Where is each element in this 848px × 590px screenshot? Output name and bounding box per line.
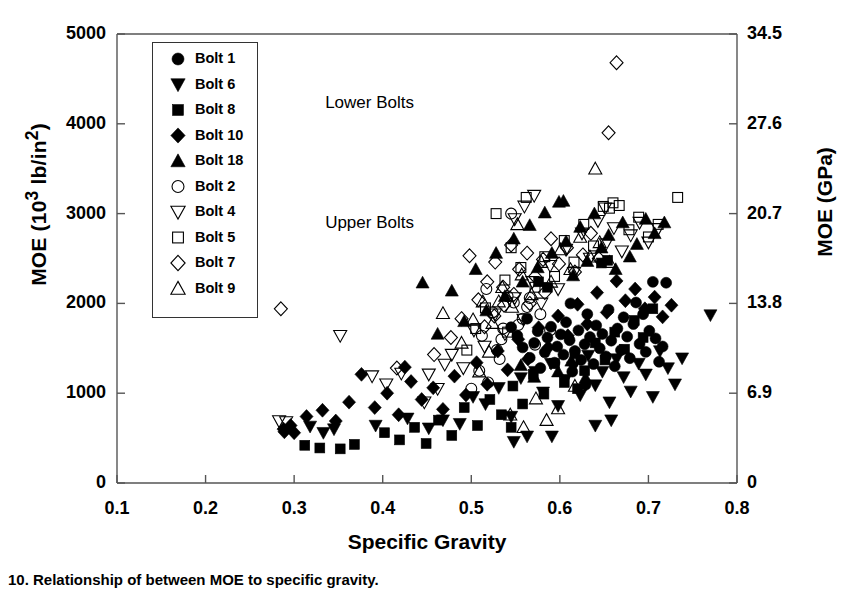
data-point bbox=[447, 430, 457, 440]
data-point bbox=[422, 369, 435, 381]
data-point bbox=[392, 408, 405, 422]
data-point bbox=[315, 443, 325, 453]
data-point bbox=[545, 431, 558, 443]
data-point bbox=[661, 363, 674, 375]
x-tick-label-6: 0.7 bbox=[618, 498, 678, 519]
plot-annotation-0: Lower Bolts bbox=[325, 93, 414, 113]
data-point bbox=[444, 331, 457, 345]
data-point bbox=[646, 392, 659, 404]
data-point bbox=[589, 420, 602, 432]
data-point bbox=[523, 219, 536, 231]
data-point bbox=[491, 209, 501, 219]
data-point bbox=[486, 317, 499, 329]
data-point bbox=[658, 216, 671, 228]
data-point bbox=[434, 415, 444, 425]
data-point bbox=[355, 367, 368, 381]
legend-item-bolt-5[interactable]: Bolt 5 bbox=[153, 226, 259, 251]
data-point bbox=[535, 309, 546, 320]
data-point bbox=[317, 427, 330, 439]
data-point bbox=[274, 302, 287, 316]
legend-item-label: Bolt 9 bbox=[195, 280, 235, 296]
data-point bbox=[573, 325, 584, 336]
data-point bbox=[368, 401, 381, 415]
legend-item-bolt-8[interactable]: Bolt 8 bbox=[153, 98, 259, 123]
legend-item-bolt-18[interactable]: Bolt 18 bbox=[153, 149, 259, 174]
data-point bbox=[500, 275, 510, 285]
data-point bbox=[640, 346, 651, 357]
x-tick-label-4: 0.5 bbox=[441, 498, 501, 519]
data-point bbox=[448, 369, 461, 383]
data-point bbox=[349, 439, 359, 449]
data-point bbox=[629, 316, 639, 326]
y-tick-label-left-3: 3000 bbox=[36, 203, 106, 224]
data-point bbox=[614, 201, 624, 211]
data-point bbox=[316, 403, 329, 417]
y-tick-label-left-0: 0 bbox=[36, 472, 106, 493]
data-point bbox=[590, 338, 600, 348]
x-tick-label-5: 0.6 bbox=[530, 498, 590, 519]
figure-caption: 10. Relationship of between MOE to speci… bbox=[8, 571, 838, 590]
data-point bbox=[431, 327, 444, 339]
plot-annotation-1: Upper Bolts bbox=[325, 213, 414, 233]
data-point bbox=[624, 230, 637, 242]
data-point bbox=[591, 286, 604, 300]
data-point bbox=[300, 440, 310, 450]
data-point bbox=[366, 371, 379, 383]
legend-item-bolt-1[interactable]: Bolt 1 bbox=[153, 47, 259, 72]
data-point bbox=[624, 386, 637, 398]
data-point bbox=[619, 294, 632, 308]
data-point bbox=[507, 232, 520, 244]
data-point bbox=[492, 383, 505, 395]
data-point bbox=[632, 358, 645, 370]
data-point bbox=[334, 330, 347, 342]
data-point bbox=[506, 422, 516, 432]
data-point bbox=[622, 331, 633, 342]
data-point bbox=[588, 207, 601, 219]
x-axis-label: Specific Gravity bbox=[117, 530, 737, 554]
legend-item-bolt-7[interactable]: Bolt 7 bbox=[153, 251, 259, 276]
data-point bbox=[469, 263, 482, 275]
x-tick-label-1: 0.2 bbox=[176, 498, 236, 519]
y-tick-label-left-1: 1000 bbox=[36, 382, 106, 403]
data-point bbox=[445, 284, 458, 296]
data-point bbox=[544, 232, 557, 246]
x-tick-label-2: 0.3 bbox=[264, 498, 324, 519]
data-point bbox=[405, 375, 418, 389]
data-point bbox=[610, 274, 623, 288]
data-point bbox=[639, 369, 652, 381]
legend-item-bolt-4[interactable]: Bolt 4 bbox=[153, 200, 259, 225]
legend-item-label: Bolt 2 bbox=[195, 178, 235, 194]
y-tick-label-right-0: 0 bbox=[747, 472, 817, 493]
data-point bbox=[485, 395, 495, 405]
y-tick-label-right-1: 6.9 bbox=[747, 382, 817, 403]
data-point bbox=[335, 444, 345, 454]
legend-item-bolt-10[interactable]: Bolt 10 bbox=[153, 124, 259, 149]
y-tick-label-left-4: 4000 bbox=[36, 113, 106, 134]
data-point bbox=[416, 276, 429, 288]
legend-item-bolt-9[interactable]: Bolt 9 bbox=[153, 277, 259, 302]
data-point bbox=[617, 372, 630, 384]
data-point bbox=[395, 435, 405, 445]
y-tick-label-right-5: 34.5 bbox=[747, 23, 817, 44]
data-point bbox=[603, 397, 616, 409]
data-point bbox=[676, 353, 689, 365]
data-point bbox=[704, 310, 717, 322]
data-point bbox=[629, 282, 642, 296]
data-point bbox=[668, 379, 681, 391]
x-tick-label-7: 0.8 bbox=[707, 498, 767, 519]
data-point bbox=[540, 414, 553, 426]
data-point bbox=[501, 363, 514, 377]
legend-item-bolt-6[interactable]: Bolt 6 bbox=[153, 73, 259, 98]
legend-item-label: Bolt 8 bbox=[195, 101, 235, 117]
x-tick-label-3: 0.4 bbox=[353, 498, 413, 519]
x-tick-label-0: 0.1 bbox=[87, 498, 147, 519]
data-point bbox=[438, 359, 451, 371]
data-point bbox=[589, 162, 602, 174]
legend-item-label: Bolt 5 bbox=[195, 229, 235, 245]
data-point bbox=[631, 297, 642, 308]
data-point bbox=[507, 436, 520, 448]
legend-item-bolt-2[interactable]: Bolt 2 bbox=[153, 175, 259, 200]
data-point bbox=[521, 246, 534, 260]
data-point bbox=[513, 262, 526, 276]
legend-item-label: Bolt 1 bbox=[195, 50, 235, 66]
